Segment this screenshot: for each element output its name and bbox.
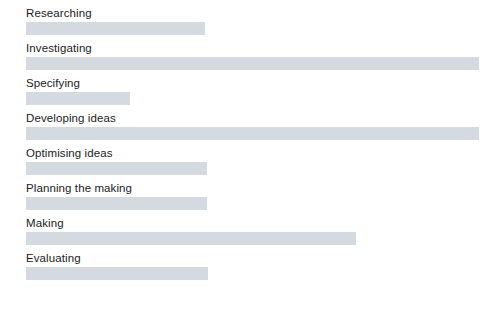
bar-track bbox=[26, 267, 501, 288]
bar-label: Researching bbox=[26, 6, 501, 20]
bar-label: Making bbox=[26, 216, 501, 230]
bar-fill[interactable] bbox=[26, 267, 208, 280]
bar-fill[interactable] bbox=[26, 232, 356, 245]
bar-group: Optimising ideas bbox=[26, 146, 501, 181]
bar-group: Investigating bbox=[26, 41, 501, 76]
bar-track bbox=[26, 197, 501, 218]
bar-track bbox=[26, 57, 501, 78]
bar-group: Evaluating bbox=[26, 251, 501, 286]
bar-label: Developing ideas bbox=[26, 111, 501, 125]
bar-label: Evaluating bbox=[26, 251, 501, 265]
bar-group: Researching bbox=[26, 6, 501, 41]
bar-label: Investigating bbox=[26, 41, 501, 55]
bar-fill[interactable] bbox=[26, 22, 205, 35]
bar-label: Optimising ideas bbox=[26, 146, 501, 160]
bar-group: Developing ideas bbox=[26, 111, 501, 146]
bar-fill[interactable] bbox=[26, 162, 207, 175]
bar-track bbox=[26, 127, 501, 148]
bar-label: Specifying bbox=[26, 76, 501, 90]
bar-track bbox=[26, 22, 501, 43]
bar-label: Planning the making bbox=[26, 181, 501, 195]
bar-fill[interactable] bbox=[26, 197, 207, 210]
bar-group: Making bbox=[26, 216, 501, 251]
bar-fill[interactable] bbox=[26, 127, 479, 140]
bar-track bbox=[26, 92, 501, 113]
bar-track bbox=[26, 162, 501, 183]
bar-fill[interactable] bbox=[26, 57, 479, 70]
bar-group: Planning the making bbox=[26, 181, 501, 216]
bar-track bbox=[26, 232, 501, 253]
bar-group: Specifying bbox=[26, 76, 501, 111]
chart-plot-area: Researching Investigating Specifying Dev… bbox=[26, 6, 501, 320]
horizontal-bar-chart: Researching Investigating Specifying Dev… bbox=[0, 0, 501, 320]
bar-fill[interactable] bbox=[26, 92, 130, 105]
